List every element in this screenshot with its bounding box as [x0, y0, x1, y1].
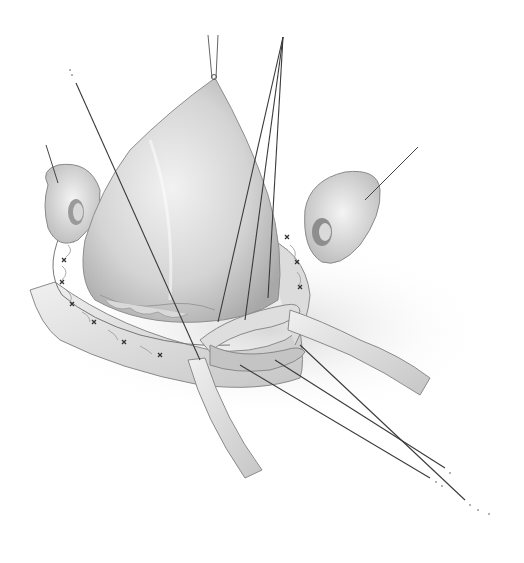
retracted-leaflet [83, 78, 280, 322]
apex-traction-sutures [208, 35, 218, 80]
illustration-artwork [0, 0, 524, 563]
surgical-illustration [0, 0, 524, 563]
right-tissue-flap [305, 147, 418, 263]
cropped-caption [0, 559, 524, 563]
